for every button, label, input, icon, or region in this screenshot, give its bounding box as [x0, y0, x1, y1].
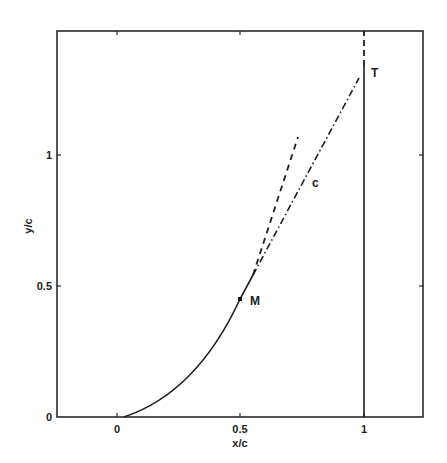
- y-axis-ticks: [57, 155, 423, 286]
- chord-line-c: [253, 78, 359, 275]
- annotation-c: c: [312, 176, 319, 190]
- plot-frame: [57, 31, 423, 417]
- camber-curve: [124, 275, 253, 417]
- x-tick-label-1: 1: [361, 423, 367, 435]
- x-axis-ticks: [117, 31, 364, 417]
- point-m-marker: [238, 297, 242, 301]
- annotation-t: T: [371, 66, 379, 80]
- chart: 0 0.5 1 0 0.5 1 x/c y/c M c T: [0, 0, 447, 463]
- x-tick-label-0-5: 0.5: [232, 423, 247, 435]
- x-tick-label-0: 0: [114, 423, 120, 435]
- y-tick-label-0: 0: [46, 411, 52, 423]
- y-axis-label: y/c: [22, 218, 34, 233]
- dashed-extension-line: [253, 137, 298, 275]
- annotation-m: M: [250, 294, 260, 308]
- x-axis-label: x/c: [232, 437, 247, 449]
- y-tick-label-0-5: 0.5: [37, 280, 52, 292]
- y-tick-label-1: 1: [46, 149, 52, 161]
